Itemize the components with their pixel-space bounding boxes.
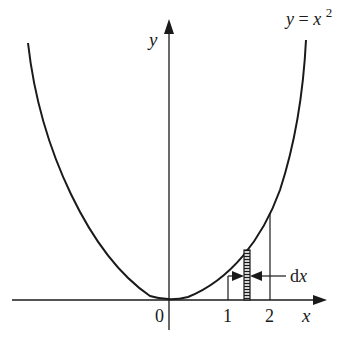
dx-label-x: x: [298, 266, 307, 286]
arrow-left-icon: [250, 271, 262, 281]
arrow-right-icon: [232, 271, 244, 281]
tick-label-1: 1: [223, 306, 232, 326]
dx-strip: [244, 250, 250, 300]
curve-label-exp: 2: [326, 5, 333, 20]
tick-label-2: 2: [265, 306, 274, 326]
dx-arrows: [228, 271, 286, 281]
curve-equation-label: y = x 2: [284, 5, 332, 29]
curve-label-lhs: y: [284, 9, 294, 29]
y-axis: [164, 19, 174, 330]
parabola-diagram: y x 0 1 2 dx y = x 2: [0, 0, 337, 341]
curve-label-eq: =: [299, 9, 309, 29]
x-axis-arrow-icon: [313, 295, 327, 305]
dx-label-d: d: [290, 266, 299, 286]
y-axis-label: y: [147, 29, 158, 50]
curve-label-base: x: [312, 9, 321, 29]
x-axis-label: x: [301, 305, 311, 326]
origin-label: 0: [155, 306, 164, 326]
dx-label: dx: [290, 266, 307, 286]
y-axis-arrow-icon: [164, 19, 174, 34]
parabola-curve: [28, 40, 306, 299]
